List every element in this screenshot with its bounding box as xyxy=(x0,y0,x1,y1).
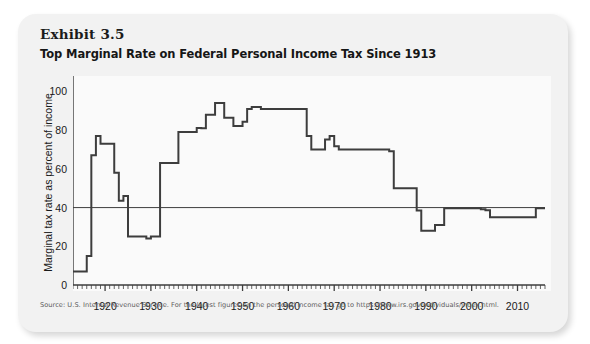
plot-background xyxy=(73,76,551,291)
exhibit-card-inner: Exhibit 3.5 Top Marginal Rate on Federal… xyxy=(18,14,568,332)
chart-svg xyxy=(73,76,551,291)
y-tick-40: 40 xyxy=(55,202,67,214)
screenshot-root: Exhibit 3.5 Top Marginal Rate on Federal… xyxy=(0,0,590,344)
y-tick-20: 20 xyxy=(55,240,67,252)
chart-plot-area: Marginal tax rate as percent of income 0… xyxy=(73,76,551,291)
x-tick-2010: 2010 xyxy=(506,300,529,312)
y-tick-100: 100 xyxy=(49,85,67,97)
y-tick-80: 80 xyxy=(55,124,67,136)
chart-title: Top Marginal Rate on Federal Personal In… xyxy=(40,47,436,61)
y-tick-60: 60 xyxy=(55,163,67,175)
y-tick-0: 0 xyxy=(61,279,67,291)
source-note: Source: U.S. Internal Revenue Service. F… xyxy=(40,301,499,309)
exhibit-card: Exhibit 3.5 Top Marginal Rate on Federal… xyxy=(18,14,568,332)
exhibit-number-label: Exhibit 3.5 xyxy=(40,26,124,42)
y-axis-title: Marginal tax rate as percent of income xyxy=(41,75,55,290)
